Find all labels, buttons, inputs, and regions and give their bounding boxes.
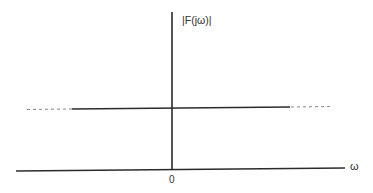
origin-label: 0 bbox=[169, 174, 175, 185]
spectrum-diagram: |F(jω)| ω 0 bbox=[0, 0, 373, 193]
magnitude-extension-right bbox=[291, 107, 331, 108]
x-axis-label: ω bbox=[350, 160, 359, 172]
y-axis-label: |F(jω)| bbox=[182, 14, 211, 26]
magnitude-extension-left bbox=[27, 109, 72, 110]
magnitude-line bbox=[72, 107, 290, 109]
x-axis bbox=[16, 168, 345, 171]
